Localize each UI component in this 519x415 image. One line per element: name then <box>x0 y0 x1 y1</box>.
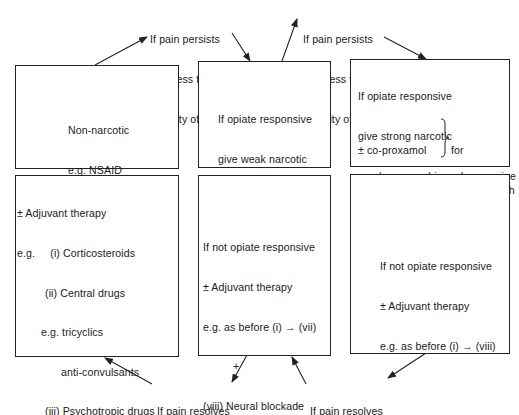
brace-icon <box>440 118 450 158</box>
arrow-box2-to-note2 <box>282 19 297 61</box>
step3-adjuvant-text: If not opiate responsive ± Adjuvant ther… <box>380 234 496 366</box>
arrow-box1-to-note1 <box>95 37 147 65</box>
note-pain-resolves-1: If pain resolves reassess therapy <box>157 379 239 415</box>
note-pain-resolves-2: If pain resolves reassess therapy <box>310 379 392 415</box>
step1-adjuvant-text: ± Adjuvant therapy e.g. (i) Corticostero… <box>17 181 180 415</box>
